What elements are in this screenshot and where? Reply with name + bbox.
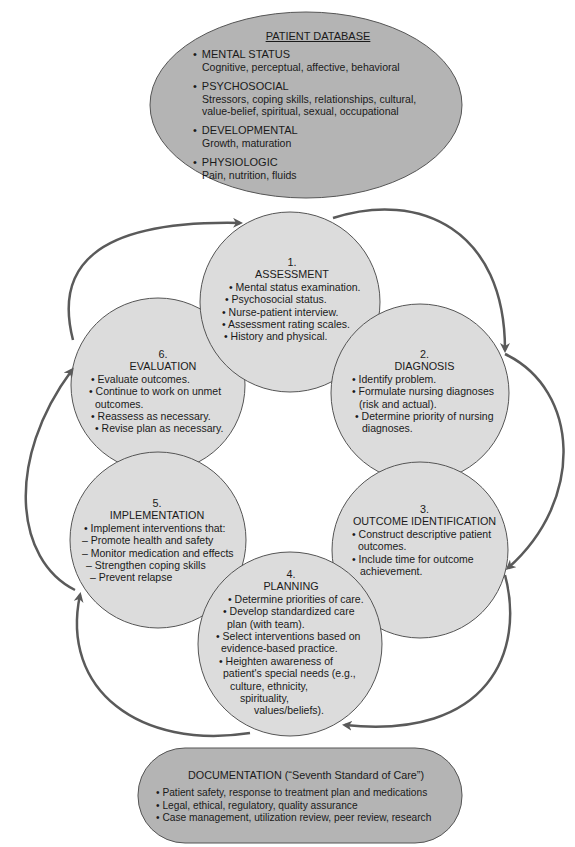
patient-database: PATIENT DATABASE MENTAL STATUS Cognitive…	[193, 30, 443, 188]
step-assessment: 1. ASSESSMENT • Mental status examinatio…	[222, 256, 362, 343]
documentation-title: DOCUMENTATION (“Seventh Standard of Care…	[156, 769, 456, 781]
database-heading: PHYSIOLOGIC	[193, 156, 443, 168]
step-name: IMPLEMENTATION	[82, 509, 232, 521]
database-detail: Pain, nutrition, fluids	[193, 169, 443, 181]
step-number: 6.	[88, 348, 238, 360]
step-line: • Determine priority of nursing	[352, 410, 497, 422]
database-detail: value-belief, spiritual, sexual, occupat…	[193, 105, 443, 117]
step-line: • Mental status examination.	[222, 281, 362, 293]
step-evaluation: 6. EVALUATION • Evaluate outcomes. • Con…	[88, 348, 238, 435]
step-line: patient's special needs (e.g.,	[216, 667, 366, 679]
step-line: • Identify problem.	[352, 373, 497, 385]
step-implementation: 5. IMPLEMENTATION • Implement interventi…	[82, 497, 242, 584]
step-diagnosis: 2. DIAGNOSIS • Identify problem. • Formu…	[352, 348, 497, 435]
step-name: OUTCOME IDENTIFICATION	[352, 515, 497, 527]
step-line: diagnoses.	[352, 422, 497, 434]
step-line: outcomes.	[88, 398, 238, 410]
step-name: DIAGNOSIS	[352, 360, 497, 372]
step-line: – Monitor medication and effects	[82, 547, 242, 559]
documentation-line: • Legal, ethical, regulatory, quality as…	[156, 800, 456, 812]
documentation-line: • Case management, utilization review, p…	[156, 812, 456, 824]
database-item-psychosocial: PSYCHOSOCIAL Stressors, coping skills, r…	[193, 80, 443, 117]
step-number: 1.	[222, 256, 362, 268]
database-detail: Growth, maturation	[193, 137, 443, 149]
step-line: • Heighten awareness of	[216, 655, 366, 667]
database-heading: MENTAL STATUS	[193, 48, 443, 60]
step-line: • Select interventions based on	[216, 630, 366, 642]
arrow-5-to-6	[26, 370, 75, 590]
step-number: 3.	[352, 503, 497, 515]
step-name: ASSESSMENT	[222, 268, 362, 280]
patient-database-title: PATIENT DATABASE	[193, 30, 443, 42]
step-line: – Promote health and safety	[82, 534, 242, 546]
step-line: evidence-based practice.	[216, 642, 366, 654]
step-line: • Nurse-patient interview.	[222, 306, 362, 318]
documentation: DOCUMENTATION (“Seventh Standard of Care…	[156, 769, 456, 825]
step-line: (risk and actual).	[352, 398, 497, 410]
step-line: achievement.	[352, 565, 497, 577]
step-planning: 4. PLANNING • Determine priorities of ca…	[216, 568, 366, 717]
step-line: outcomes.	[352, 540, 497, 552]
step-line: • Include time for outcome	[352, 553, 497, 565]
step-line: • Implement interventions that:	[82, 522, 242, 534]
step-number: 5.	[82, 497, 232, 509]
step-line: • Reassess as necessary.	[88, 410, 238, 422]
step-number: 2.	[352, 348, 497, 360]
step-line: • History and physical.	[222, 330, 362, 342]
database-item-physiologic: PHYSIOLOGIC Pain, nutrition, fluids	[193, 156, 443, 181]
step-line: • Determine priorities of care.	[216, 593, 366, 605]
step-line: values/beliefs).	[216, 704, 366, 716]
step-outcome-identification: 3. OUTCOME IDENTIFICATION • Construct de…	[352, 503, 497, 577]
database-detail: Cognitive, perceptual, affective, behavi…	[193, 61, 443, 73]
step-line: spirituality,	[216, 692, 366, 704]
step-line: • Develop standardized care	[216, 605, 366, 617]
step-line: plan (with team).	[216, 618, 366, 630]
documentation-line: • Patient safety, response to treatment …	[156, 787, 456, 799]
step-line: – Prevent relapse	[82, 571, 242, 583]
step-line: culture, ethnicity,	[216, 680, 366, 692]
step-line: • Construct descriptive patient	[352, 528, 497, 540]
database-heading: PSYCHOSOCIAL	[193, 80, 443, 92]
database-item-mental-status: MENTAL STATUS Cognitive, perceptual, aff…	[193, 48, 443, 73]
step-name: EVALUATION	[88, 360, 238, 372]
step-line: • Assessment rating scales.	[222, 318, 362, 330]
database-heading: DEVELOPMENTAL	[193, 124, 443, 136]
step-line: • Evaluate outcomes.	[88, 373, 238, 385]
step-line: • Formulate nursing diagnoses	[352, 385, 497, 397]
step-line: • Continue to work on unmet	[88, 385, 238, 397]
arrow-2-to-3	[505, 354, 564, 568]
step-line: • Psychosocial status.	[222, 293, 362, 305]
database-detail: Stressors, coping skills, relationships,…	[193, 93, 443, 105]
step-line: – Strengthen coping skills	[82, 559, 242, 571]
database-item-developmental: DEVELOPMENTAL Growth, maturation	[193, 124, 443, 149]
step-line: • Revise plan as necessary.	[88, 422, 238, 434]
